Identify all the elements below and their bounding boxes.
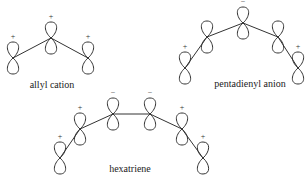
lower-lobe: [74, 129, 85, 145]
upper-lobe: [179, 52, 190, 68]
lower-lobe: [179, 68, 190, 84]
p-orbital: +: [74, 103, 85, 145]
upper-lobe: [144, 98, 155, 114]
lower-lobe: [237, 23, 248, 39]
lower-lobe: [82, 58, 93, 74]
phase-sign: +: [201, 132, 206, 141]
p-orbital: −: [144, 88, 155, 130]
upper-lobe: [292, 52, 303, 68]
upper-lobe: [54, 142, 65, 158]
p-orbital: +: [82, 32, 93, 74]
phase-sign: +: [180, 103, 185, 112]
p-orbital: [201, 21, 212, 53]
phase-sign: +: [296, 42, 301, 51]
upper-lobe: [197, 142, 208, 158]
phase-sign: +: [183, 42, 188, 51]
lower-lobe: [176, 129, 187, 145]
lower-lobe: [201, 37, 212, 53]
upper-lobe: [45, 22, 56, 38]
upper-lobe: [107, 98, 118, 114]
p-orbital-diagram: +++allyl cation+−+pentadienyl anion++−−+…: [0, 0, 307, 185]
lower-lobe: [7, 58, 18, 74]
lower-lobe: [272, 37, 283, 53]
sigma-bond-chain: [13, 38, 88, 58]
p-orbital: +: [179, 42, 190, 84]
upper-lobe: [237, 7, 248, 23]
lower-lobe: [197, 158, 208, 174]
lower-lobe: [292, 68, 303, 84]
molecule-hexatriene: ++−−++hexatriene: [54, 88, 208, 174]
lower-lobe: [107, 114, 118, 130]
p-orbital: +: [7, 32, 18, 74]
molecule-label: hexatriene: [109, 163, 151, 174]
upper-lobe: [272, 21, 283, 37]
molecule-label: allyl cation: [30, 79, 75, 90]
phase-sign: −: [148, 88, 153, 97]
phase-sign: +: [78, 103, 83, 112]
p-orbital: +: [176, 103, 187, 145]
p-orbital: +: [292, 42, 303, 84]
lower-lobe: [144, 114, 155, 130]
p-orbital: −: [107, 88, 118, 130]
phase-sign: +: [58, 132, 63, 141]
upper-lobe: [176, 113, 187, 129]
sigma-bond-chain: [60, 114, 203, 158]
p-orbital: +: [54, 132, 65, 174]
molecule-label: pentadienyl anion: [214, 78, 285, 89]
phase-sign: −: [111, 88, 116, 97]
phase-sign: −: [241, 0, 246, 6]
phase-sign: +: [86, 32, 91, 41]
phase-sign: +: [11, 32, 16, 41]
p-orbital: −: [237, 0, 248, 39]
p-orbital: +: [197, 132, 208, 174]
upper-lobe: [201, 21, 212, 37]
p-orbital: [272, 21, 283, 53]
p-orbital: +: [45, 12, 56, 54]
phase-sign: +: [49, 12, 54, 21]
molecule-pentadienyl-anion: +−+pentadienyl anion: [179, 0, 303, 89]
lower-lobe: [54, 158, 65, 174]
upper-lobe: [74, 113, 85, 129]
molecule-allyl-cation: +++allyl cation: [7, 12, 93, 90]
